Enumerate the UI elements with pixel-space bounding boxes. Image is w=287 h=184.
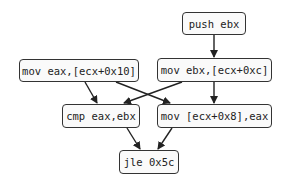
- edge-moveax-to-movstore: [116, 82, 170, 103]
- node-jle: jle 0x5c: [119, 150, 179, 174]
- edge-movstore-to-jle: [158, 128, 172, 149]
- node-mov-store: mov [ecx+0x8],eax: [157, 104, 272, 128]
- edge-moveax-to-cmp: [85, 82, 97, 103]
- edge-cmp-to-jle: [127, 128, 140, 149]
- node-cmp: cmp eax,ebx: [62, 104, 140, 128]
- node-push-ebx: push ebx: [182, 12, 246, 35]
- edge-movebx-to-cmp: [124, 82, 182, 103]
- node-mov-ebx: mov ebx,[ecx+0xc]: [157, 58, 272, 82]
- node-mov-eax: mov eax,[ecx+0x10]: [19, 59, 139, 82]
